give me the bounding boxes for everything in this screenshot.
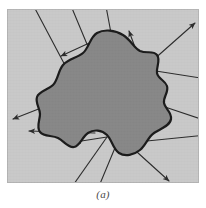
figure-caption: (a): [0, 188, 206, 200]
figure-panel: [7, 9, 199, 183]
region-with-normal-vectors-diagram: [7, 9, 199, 183]
figure-container: (a): [0, 0, 206, 208]
